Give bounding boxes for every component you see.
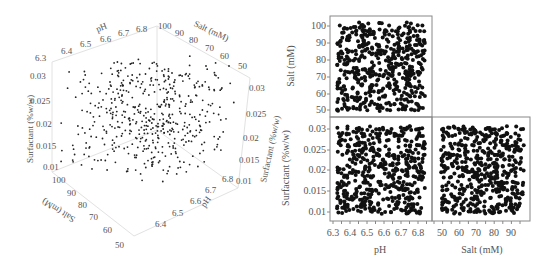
ph-x-axis: 6.3 6.4 6.5 6.6 6.7 6.8	[327, 227, 425, 238]
svg-text:70: 70	[89, 212, 99, 222]
svg-text:90: 90	[175, 28, 185, 38]
svg-text:60: 60	[220, 51, 230, 61]
svg-text:0.015: 0.015	[239, 155, 260, 165]
svg-text:90: 90	[67, 188, 77, 198]
svg-text:60: 60	[316, 88, 326, 99]
ph-axis-top: 6.3 6.4 6.5 6.6 6.7 6.8 pH	[35, 21, 148, 63]
salt-x-axis: 50 60 70 80 90	[437, 227, 516, 238]
svg-text:0.03: 0.03	[309, 123, 327, 134]
svg-text:100: 100	[158, 21, 172, 31]
svg-text:0.015: 0.015	[36, 141, 57, 151]
svg-text:50: 50	[437, 227, 447, 238]
svg-text:60: 60	[454, 227, 464, 238]
svg-text:6.7: 6.7	[118, 28, 130, 38]
svg-text:6.4: 6.4	[61, 46, 73, 56]
salt-axis-bottom: 100 90 80 70 60 50 Salt (mM)	[40, 175, 125, 250]
svg-text:6.8: 6.8	[412, 227, 425, 238]
salt-x-label: Salt (mM)	[461, 244, 502, 256]
svg-text:70: 70	[205, 43, 215, 53]
svg-text:80: 80	[316, 54, 326, 65]
svg-text:6.6: 6.6	[100, 34, 112, 44]
svg-text:90: 90	[316, 37, 326, 48]
svg-text:6.8: 6.8	[136, 24, 148, 34]
svg-text:0.025: 0.025	[246, 109, 267, 119]
salt-axis-top: 100 90 80 70 60 50 Salt (mM)	[158, 18, 248, 71]
surfactant-y-label: Surfactant (%w/w)	[280, 130, 292, 206]
svg-text:Salt (mM): Salt (mM)	[40, 196, 77, 224]
svg-text:Surfactant (%w/w): Surfactant (%w/w)	[25, 95, 35, 163]
svg-text:0.01: 0.01	[43, 162, 59, 172]
ph-x-label: pH	[374, 244, 386, 255]
svg-text:80: 80	[78, 200, 88, 210]
svg-text:50: 50	[238, 61, 248, 71]
svg-text:pH: pH	[94, 21, 108, 35]
svg-text:0.015: 0.015	[304, 185, 327, 196]
scatter-3d-points	[60, 55, 235, 182]
svg-text:90: 90	[506, 227, 516, 238]
surfactant-y-axis: 0.03 0.025 0.02 0.015 0.01	[304, 123, 327, 217]
svg-text:6.4: 6.4	[344, 227, 357, 238]
svg-text:6.3: 6.3	[327, 227, 340, 238]
svg-text:6.5: 6.5	[80, 39, 92, 49]
svg-text:6.6: 6.6	[378, 227, 391, 238]
svg-text:100: 100	[52, 175, 66, 185]
svg-text:6.3: 6.3	[35, 53, 47, 63]
salt-y-label: Salt (mM)	[285, 45, 297, 86]
svg-text:0.01: 0.01	[236, 176, 252, 186]
scatter-matrix-panel: 100 90 80 70 60 50 Salt (mM) 0.03 0.025 …	[280, 16, 530, 256]
svg-text:Surfactant (%w/w): Surfactant (%w/w)	[258, 115, 282, 184]
svg-text:70: 70	[471, 227, 481, 238]
svg-text:80: 80	[489, 227, 499, 238]
surfactant-axis-right: 0.03 0.025 0.02 0.015 0.01 Surfactant (%…	[236, 83, 282, 186]
svg-text:0.02: 0.02	[243, 133, 259, 143]
scatter-3d-panel: 6.3 6.4 6.5 6.6 6.7 6.8 pH 100 90 80 70 …	[25, 18, 282, 250]
surfactant-vs-salt-points	[439, 124, 526, 216]
svg-text:60: 60	[103, 225, 113, 235]
svg-text:80: 80	[189, 35, 199, 45]
svg-text:6.5: 6.5	[361, 227, 374, 238]
svg-text:6.5: 6.5	[172, 208, 184, 218]
svg-text:0.02: 0.02	[36, 119, 52, 129]
surfactant-axis-left: 0.03 0.025 0.02 0.015 0.01 Surfactant (%…	[25, 71, 59, 172]
svg-text:0.03: 0.03	[249, 83, 265, 93]
svg-text:100: 100	[311, 20, 326, 31]
salt-y-axis: 100 90 80 70 60 50	[311, 20, 326, 115]
svg-text:50: 50	[316, 104, 326, 115]
svg-text:0.03: 0.03	[30, 71, 46, 81]
svg-text:6.4: 6.4	[155, 219, 167, 229]
salt-vs-ph-points	[335, 20, 427, 113]
surfactant-vs-ph-points	[335, 124, 427, 216]
svg-text:70: 70	[316, 71, 326, 82]
figure: 6.3 6.4 6.5 6.6 6.7 6.8 pH 100 90 80 70 …	[0, 0, 553, 266]
svg-text:0.02: 0.02	[309, 164, 327, 175]
svg-text:6.8: 6.8	[222, 174, 234, 184]
svg-text:Salt (mM): Salt (mM)	[192, 18, 230, 43]
svg-text:50: 50	[115, 240, 125, 250]
svg-text:0.01: 0.01	[309, 206, 327, 217]
svg-text:0.025: 0.025	[304, 144, 327, 155]
svg-text:6.7: 6.7	[205, 185, 217, 195]
svg-text:6.7: 6.7	[395, 227, 408, 238]
